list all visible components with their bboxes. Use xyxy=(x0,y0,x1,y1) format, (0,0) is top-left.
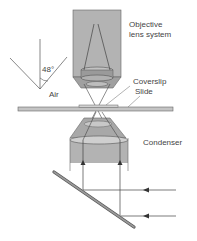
objective-lens xyxy=(73,10,121,130)
microscope-diagram: Objective lens system 48° Air Coverslip … xyxy=(0,0,197,241)
acceptance-angle xyxy=(10,39,67,89)
mirror xyxy=(54,172,134,227)
objective-label-line1: Objective xyxy=(129,20,163,29)
medium-label: Air xyxy=(49,90,59,99)
condenser-label: Condenser xyxy=(143,138,182,147)
coverslip-label: Coverslip xyxy=(133,77,167,86)
angle-label: 48° xyxy=(42,65,54,74)
objective-label-line2: lens system xyxy=(129,30,172,39)
slide-label: Slide xyxy=(135,87,153,96)
